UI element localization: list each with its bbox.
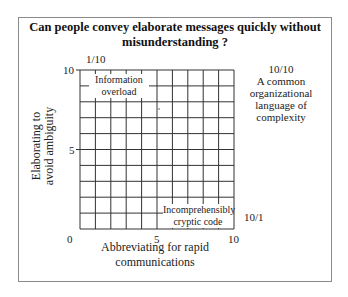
annotation-cryptic-code: Incomprehensibly cryptic code <box>163 204 233 228</box>
annotation-line: cryptic code <box>163 216 233 228</box>
note-line: language of <box>236 99 326 111</box>
x-axis-label: Abbreviating for rapid communications <box>60 240 250 270</box>
note-line: complexity <box>236 111 326 123</box>
corner-label-top-right: 10/10 A common organizational language o… <box>236 63 326 123</box>
corner-label-top-right-value: 10/10 <box>236 63 326 75</box>
data-point <box>158 108 160 110</box>
y-axis-label: Elaborating to avoid ambiguity <box>30 91 56 201</box>
corner-label-top-left: 1/10 <box>86 53 106 65</box>
note-line: A common <box>236 75 326 87</box>
y-tick-10: 10 <box>63 64 74 76</box>
annotation-line: Information <box>89 74 149 86</box>
note-line: organizational <box>236 87 326 99</box>
y-axis-label-line: avoid ambiguity <box>43 91 56 201</box>
y-tick-5: 5 <box>69 144 75 156</box>
corner-label-bottom-right: 10/1 <box>244 211 264 223</box>
annotation-information-overload: Information overload <box>89 74 149 98</box>
annotation-line: Incomprehensibly <box>163 204 233 216</box>
annotation-line: overload <box>89 86 149 98</box>
